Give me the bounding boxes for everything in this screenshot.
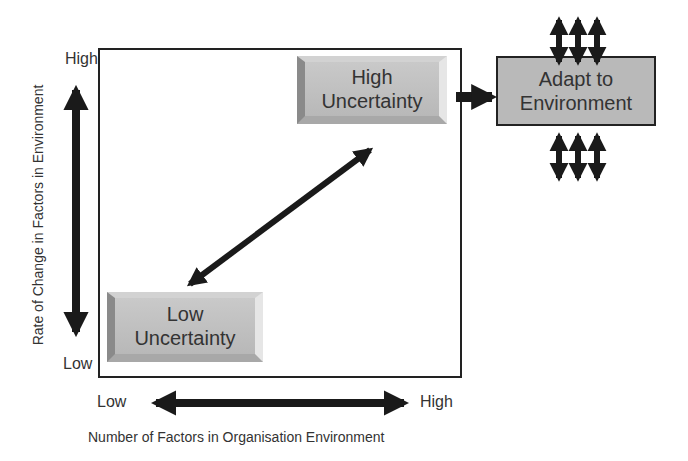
top-environment-arrows-icon <box>559 20 597 62</box>
bottom-environment-arrows-icon <box>559 136 597 178</box>
arrows-layer <box>0 0 688 461</box>
diagonal-double-arrow-icon <box>190 150 370 284</box>
